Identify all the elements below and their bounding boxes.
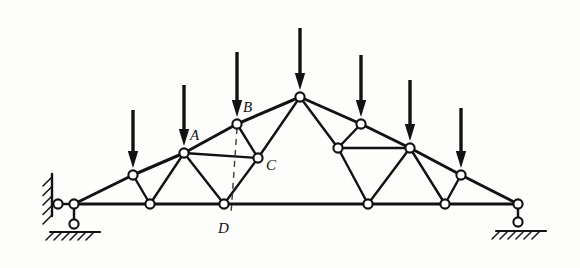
truss-joint (456, 170, 465, 179)
truss-joint (356, 119, 365, 128)
member-web (368, 148, 410, 204)
ground-hatch-tick (78, 232, 86, 240)
member-web (184, 153, 258, 158)
truss-diagram-canvas: ABCD (0, 0, 580, 268)
ground-hatch-tick (70, 232, 78, 240)
joint-label-b: B (243, 99, 252, 115)
ground-hatch-tick (86, 232, 94, 240)
wall-hatch-tick (43, 187, 52, 196)
ground-hatch-tick (46, 232, 54, 240)
supports-group (43, 174, 546, 240)
load-arrow (456, 108, 466, 168)
truss-joint (440, 199, 449, 208)
member-web (338, 148, 368, 204)
truss-joint (69, 199, 78, 208)
truss-joint (405, 143, 414, 152)
ground-hatch-tick (508, 231, 516, 239)
truss-joint (145, 199, 154, 208)
ground-hatch-tick (532, 231, 540, 239)
load-arrow-head (232, 100, 242, 117)
truss-joint (53, 199, 62, 208)
wall-hatch-tick (43, 196, 52, 205)
load-arrow-head (456, 151, 466, 168)
truss-joint (69, 219, 78, 228)
truss-figure: ABCD (0, 0, 580, 268)
load-arrow (295, 28, 305, 90)
section-cut-line (231, 128, 237, 214)
wall-hatch-tick (43, 177, 52, 186)
truss-joint (513, 217, 522, 226)
truss-joint (295, 92, 304, 101)
member-web (184, 153, 224, 204)
truss-joint (333, 143, 342, 152)
truss-joint (219, 199, 228, 208)
load-arrow-head (356, 100, 366, 117)
load-arrow (232, 52, 242, 117)
load-arrow-head (405, 124, 415, 141)
ground-hatch-tick (62, 232, 70, 240)
load-arrow-head (179, 129, 189, 146)
member-top-chord (74, 175, 133, 204)
load-arrow-head (295, 73, 305, 90)
section-cut-dashed-line (231, 128, 237, 214)
truss-joint (253, 153, 262, 162)
member-web (237, 124, 258, 158)
joint-labels-group: ABCD (189, 99, 277, 236)
load-arrow (356, 55, 366, 117)
member-web (224, 158, 258, 204)
member-top-chord (461, 175, 518, 204)
ground-hatch-tick (524, 231, 532, 239)
member-top-chord (361, 124, 410, 148)
load-arrow (405, 80, 415, 141)
ground-hatch-tick (492, 231, 500, 239)
truss-joint (179, 148, 188, 157)
load-arrow-head (128, 151, 138, 168)
wall-hatch-tick (43, 215, 52, 224)
ground-hatch-tick (54, 232, 62, 240)
joint-label-d: D (217, 220, 229, 236)
ground-hatch-tick (516, 231, 524, 239)
load-arrow (128, 110, 138, 168)
load-arrow (179, 85, 189, 146)
truss-joint (232, 119, 241, 128)
truss-joint (363, 199, 372, 208)
truss-joint (513, 199, 522, 208)
joint-label-c: C (266, 157, 277, 173)
ground-hatch-tick (500, 231, 508, 239)
truss-joint (128, 170, 137, 179)
wall-hatch-tick (43, 206, 52, 215)
joint-label-a: A (189, 127, 200, 143)
